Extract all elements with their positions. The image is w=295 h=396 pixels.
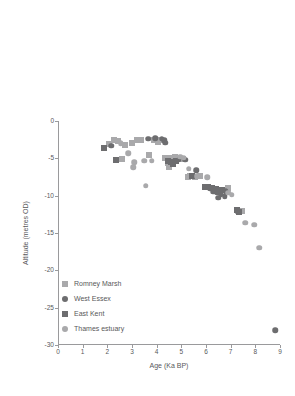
x-tick-label: 4: [155, 349, 159, 356]
data-point: [251, 222, 257, 228]
data-point: [118, 141, 124, 147]
data-point: [163, 140, 169, 146]
legend-item-west-essex[interactable]: West Essex: [62, 291, 124, 306]
legend-item-romney-marsh[interactable]: Romney Marsh: [62, 276, 124, 291]
x-tick-label: 2: [106, 349, 110, 356]
legend-item-label: Romney Marsh: [74, 280, 121, 287]
x-tick-label: 8: [254, 349, 258, 356]
y-axis-line: [58, 121, 59, 345]
data-point: [213, 186, 219, 192]
data-point: [195, 174, 201, 180]
y-tick-label: -25: [45, 304, 54, 311]
data-point: [113, 157, 119, 163]
y-tick: [55, 158, 58, 159]
y-tick-label: -5: [48, 155, 54, 162]
data-point: [216, 195, 222, 201]
data-point: [204, 174, 210, 180]
data-point: [229, 192, 235, 198]
y-tick: [55, 196, 58, 197]
data-point: [119, 156, 125, 162]
legend-circle-icon: [62, 326, 68, 332]
data-point: [181, 155, 187, 161]
y-tick-label: -10: [45, 192, 54, 199]
x-tick-label: 1: [81, 349, 85, 356]
data-point: [145, 136, 151, 142]
data-point: [142, 158, 148, 164]
y-tick-label: 0: [50, 118, 54, 125]
y-tick: [55, 121, 58, 122]
data-point: [108, 143, 114, 149]
x-tick-label: 9: [278, 349, 282, 356]
data-point: [143, 183, 149, 189]
legend-square-icon: [62, 281, 68, 287]
x-tick-label: 3: [130, 349, 134, 356]
data-point: [101, 145, 107, 151]
data-point: [272, 327, 278, 333]
data-point: [138, 137, 144, 143]
data-point: [130, 165, 136, 171]
x-tick-label: 6: [204, 349, 208, 356]
data-point: [236, 209, 242, 215]
data-point: [219, 187, 225, 193]
y-tick: [55, 233, 58, 234]
legend-item-label: East Kent: [74, 310, 104, 317]
legend-item-thames-estuary[interactable]: Thames estuary: [62, 321, 124, 336]
y-tick-label: -15: [45, 230, 54, 237]
scatter-chart-figure: Altitude (metres OD) Age (Ka BP) 0-5-10-…: [0, 0, 295, 396]
y-tick-label: -20: [45, 267, 54, 274]
legend-circle-icon: [62, 296, 68, 302]
legend-square-icon: [62, 311, 68, 317]
data-point: [256, 245, 262, 251]
chart-legend: Romney MarshWest EssexEast KentThames es…: [62, 276, 124, 336]
x-tick-label: 0: [56, 349, 60, 356]
y-tick: [55, 270, 58, 271]
x-axis-line: [58, 344, 280, 345]
legend-item-label: West Essex: [74, 295, 111, 302]
y-tick: [55, 308, 58, 309]
x-tick-label: 5: [180, 349, 184, 356]
data-point: [186, 166, 192, 172]
y-axis-title: Altitude (metres OD): [20, 121, 31, 345]
x-axis-title: Age (Ka BP): [58, 362, 280, 369]
legend-item-label: Thames estuary: [74, 325, 124, 332]
data-point: [193, 168, 199, 174]
data-point: [243, 220, 249, 226]
data-point: [149, 158, 155, 164]
y-tick-label: -30: [45, 342, 54, 349]
x-tick-label: 7: [229, 349, 233, 356]
data-point: [153, 135, 159, 141]
legend-item-east-kent[interactable]: East Kent: [62, 306, 124, 321]
data-point: [126, 150, 132, 156]
